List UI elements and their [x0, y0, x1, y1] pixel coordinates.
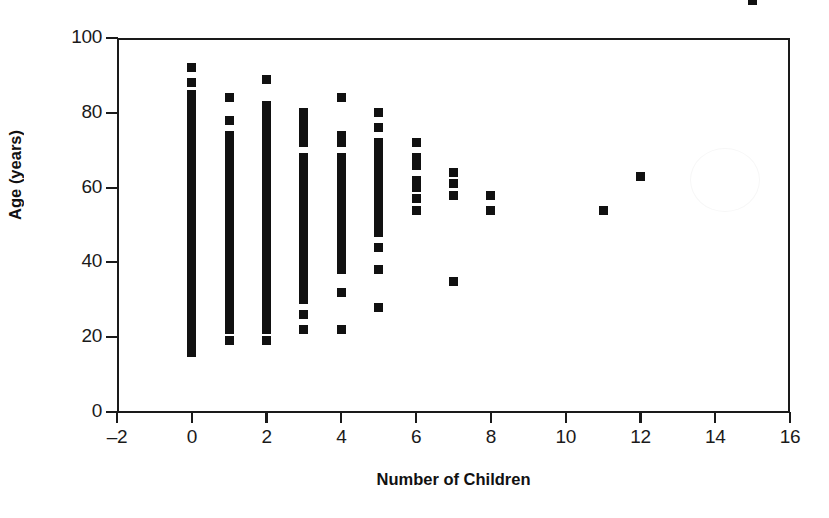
- x-axis-tick: [789, 412, 791, 423]
- x-axis-tick: [116, 412, 118, 423]
- x-axis-tick: [639, 412, 641, 423]
- x-axis-line: [117, 411, 790, 413]
- y-axis-line: [117, 38, 119, 413]
- x-axis-tick-label: 10: [541, 426, 591, 448]
- x-axis-tick-label: 8: [466, 426, 516, 448]
- data-point: [748, 0, 757, 5]
- x-axis-tick-label: 12: [615, 426, 665, 448]
- x-axis-tick: [714, 412, 716, 423]
- y-axis-tick: [106, 336, 118, 338]
- y-axis-tick-label: 80: [40, 101, 102, 123]
- y-axis-tick: [106, 187, 118, 189]
- x-axis-tick-label: 14: [690, 426, 740, 448]
- x-axis-tick: [191, 412, 193, 423]
- x-axis-tick-label: 4: [316, 426, 366, 448]
- y-axis-tick-label: 0: [40, 400, 102, 422]
- plot-frame: [117, 38, 790, 412]
- x-axis-tick: [265, 412, 267, 423]
- x-axis-tick-label: 0: [167, 426, 217, 448]
- scan-artifact: [690, 148, 760, 212]
- y-axis-tick-label: 40: [40, 250, 102, 272]
- x-axis-tick-label: –2: [92, 426, 142, 448]
- scatter-plot-figure: 020406080100–20246810121416 Age (years) …: [0, 0, 829, 518]
- x-axis-tick-label: 2: [242, 426, 292, 448]
- x-axis-tick: [490, 412, 492, 423]
- x-axis-tick: [415, 412, 417, 423]
- y-axis-tick-label: 20: [40, 325, 102, 347]
- x-axis-tick: [340, 412, 342, 423]
- x-axis-tick: [565, 412, 567, 423]
- x-axis-tick-label: 6: [391, 426, 441, 448]
- y-axis-tick: [106, 261, 118, 263]
- x-axis-tick-label: 16: [765, 426, 815, 448]
- y-axis-tick-label: 100: [40, 26, 102, 48]
- y-axis-title: Age (years): [6, 130, 36, 220]
- y-axis-tick: [106, 112, 118, 114]
- y-axis-tick-label: 60: [40, 176, 102, 198]
- x-axis-title: Number of Children: [117, 470, 790, 489]
- y-axis-tick: [106, 37, 118, 39]
